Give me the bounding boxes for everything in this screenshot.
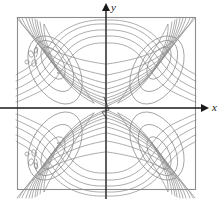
lobe-center-dot-lower-left	[57, 142, 59, 144]
contour-quadrant-upper-right	[107, 18, 196, 114]
contour-islands-upper-left	[25, 47, 39, 67]
contour-quadrant-lower-left	[16, 102, 105, 198]
lobe-center-dot-upper-left	[57, 72, 59, 74]
contour-quadrant-upper-left	[16, 18, 105, 114]
y-axis-label: y	[111, 2, 116, 13]
y-axis-arrowhead	[102, 3, 110, 11]
x-axis-arrowhead	[201, 104, 209, 112]
contour-islands-lower-left	[25, 149, 39, 169]
x-axis-label: x	[212, 102, 217, 113]
contour-plot-canvas	[0, 0, 224, 204]
contour-figure: x y	[0, 0, 224, 204]
contour-quadrant-lower-right	[107, 102, 196, 198]
